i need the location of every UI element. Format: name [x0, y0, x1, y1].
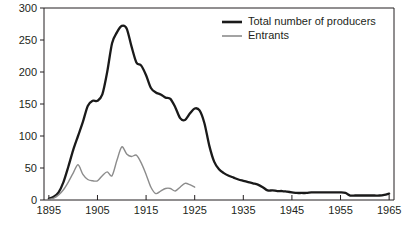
legend-label-total-number-of-producers: Total number of producers [248, 15, 376, 27]
x-tick-label: 1905 [85, 204, 109, 216]
x-tick-label: 1955 [328, 204, 352, 216]
y-tick-label: 50 [25, 162, 37, 174]
x-tick-label: 1895 [37, 204, 61, 216]
x-tick-label: 1925 [182, 204, 206, 216]
line-chart: 050100150200250300 189519051915192519351… [0, 0, 411, 226]
y-tick-label: 150 [19, 98, 37, 110]
y-tick-label: 200 [19, 66, 37, 78]
y-tick-label: 300 [19, 2, 37, 14]
x-tick-label: 1915 [134, 204, 158, 216]
x-tick-label: 1965 [377, 204, 401, 216]
chart-figure: 050100150200250300 189519051915192519351… [0, 0, 411, 226]
x-tick-label: 1945 [280, 204, 304, 216]
legend-label-entrants: Entrants [248, 29, 289, 41]
x-tick-label: 1935 [231, 204, 255, 216]
y-tick-label: 250 [19, 34, 37, 46]
y-tick-label: 100 [19, 130, 37, 142]
